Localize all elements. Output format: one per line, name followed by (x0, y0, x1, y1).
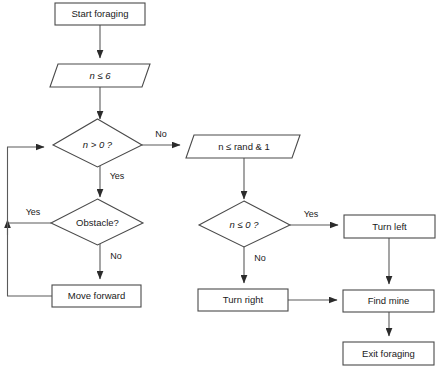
node-exit-foraging-label: Exit foraging (362, 348, 415, 359)
node-move-forward-label: Move forward (68, 290, 126, 301)
edge-label-n-le-0-yes: Yes (304, 209, 319, 219)
flowchart-svg: Start foraging n ≤ 6 n > 0 ? n ≤ rand & … (0, 0, 440, 375)
node-turn-left-label: Turn left (372, 221, 407, 232)
node-decision-n-le-0-label: n ≤ 0 ? (230, 219, 260, 230)
node-turn-right-label: Turn right (223, 294, 264, 305)
node-decision-obstacle-label: Obstacle? (76, 217, 119, 228)
edge-label-obstacle-no: No (110, 251, 122, 261)
edge-move-to-ngt0-loop (8, 147, 53, 296)
node-find-mine-label: Find mine (368, 295, 410, 306)
node-input-n-le-6-label: n ≤ 6 (89, 70, 111, 81)
edge-label-obstacle-yes: Yes (26, 207, 41, 217)
node-start-foraging-label: Start foraging (71, 8, 128, 19)
node-decision-n-gt-0-label: n > 0 ? (83, 139, 113, 150)
node-input-n-le-rand-label: n ≤ rand & 1 (218, 141, 270, 152)
edge-label-n-gt-0-yes: Yes (110, 171, 125, 181)
edge-label-n-gt-0-no: No (155, 129, 167, 139)
flowchart-canvas: Start foraging n ≤ 6 n > 0 ? n ≤ rand & … (0, 0, 440, 375)
edge-label-n-le-0-no: No (254, 253, 266, 263)
